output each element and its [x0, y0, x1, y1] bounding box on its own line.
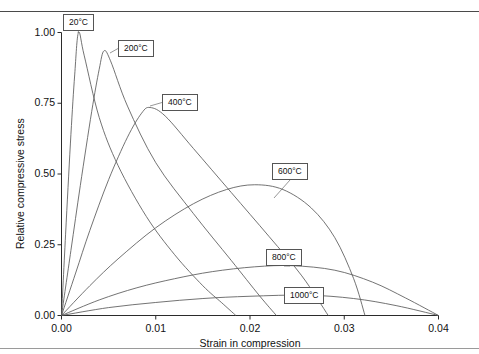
axis-lines [62, 33, 439, 316]
axes-group [58, 33, 439, 320]
x-tick-label: 0.03 [328, 322, 360, 334]
y-tick-label: 0.00 [22, 309, 55, 321]
series-curve-800c [62, 265, 439, 315]
x-tick-label: 0.04 [423, 322, 455, 334]
series-callout-1000c: 1000°C [284, 287, 324, 304]
y-tick-label: 0.75 [22, 96, 55, 108]
x-tick-label: 0.01 [140, 322, 172, 334]
x-tick-label: 0.02 [234, 322, 266, 334]
series-callout-800c: 800°C [266, 249, 302, 266]
curves-group [62, 32, 439, 316]
callout-leader-line [78, 31, 79, 33]
figure-container: 0.000.250.500.751.000.000.010.020.030.04… [0, 0, 479, 354]
x-tick-label: 0.00 [46, 322, 78, 334]
series-callout-200c: 200°C [118, 40, 154, 57]
chart-plot-area [0, 0, 479, 354]
series-curve-200c [62, 50, 277, 315]
callout-leader-line [110, 49, 118, 54]
series-callout-400c: 400°C [162, 94, 198, 111]
series-callout-600c: 600°C [272, 163, 308, 180]
x-axis-title: Strain in compression [11, 337, 479, 349]
y-tick-label: 1.00 [22, 26, 55, 38]
series-curve-20c [62, 32, 236, 316]
callout-leader-line [274, 180, 290, 198]
y-tick-label: 0.50 [22, 167, 55, 179]
series-callout-20c: 20°C [63, 14, 94, 31]
y-axis-title: Relative compressive stress [14, 118, 26, 249]
series-curve-400c [62, 107, 329, 315]
callout-leader-line [150, 103, 162, 107]
series-curve-1000c [62, 295, 439, 315]
y-tick-label: 0.25 [22, 238, 55, 250]
